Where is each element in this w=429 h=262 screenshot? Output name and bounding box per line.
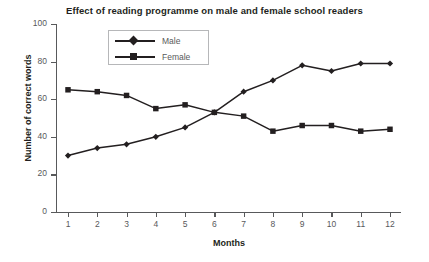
- square-marker-icon: [130, 53, 137, 60]
- chart-title: Effect of reading programme on male and …: [0, 5, 429, 16]
- data-point-female-12: [387, 127, 392, 132]
- y-tick-label-100: 100: [33, 18, 47, 28]
- y-tick-label-20: 20: [38, 168, 47, 178]
- x-tick-7: 7: [244, 212, 245, 217]
- y-tick-20: 20: [51, 174, 56, 175]
- data-point-female-6: [212, 110, 217, 115]
- y-tick-80: 80: [51, 62, 56, 63]
- x-tick-11: 11: [361, 212, 362, 217]
- legend-line-sample-female: [115, 51, 155, 63]
- series-line-male: [68, 63, 390, 155]
- x-tick-label-7: 7: [236, 219, 252, 229]
- data-point-male-10: [328, 68, 334, 74]
- x-tick-4: 4: [156, 212, 157, 217]
- data-point-female-2: [95, 89, 100, 94]
- data-point-female-3: [124, 93, 129, 98]
- data-point-female-8: [270, 128, 275, 133]
- x-axis-line: [56, 212, 401, 213]
- x-axis-title: Months: [57, 238, 401, 248]
- data-point-male-11: [358, 60, 364, 66]
- x-tick-9: 9: [302, 212, 303, 217]
- data-point-male-5: [182, 124, 188, 130]
- x-tick-3: 3: [127, 212, 128, 217]
- series-line-female: [68, 90, 390, 131]
- legend-line-sample-male: [115, 35, 155, 47]
- x-tick-10: 10: [331, 212, 332, 217]
- y-axis-title: Number of correct words: [23, 28, 33, 188]
- data-point-female-5: [182, 102, 187, 107]
- data-point-male-9: [299, 62, 305, 68]
- x-tick-8: 8: [273, 212, 274, 217]
- data-point-male-4: [153, 134, 159, 140]
- x-tick-label-6: 6: [206, 219, 222, 229]
- y-tick-100: 100: [51, 24, 56, 25]
- y-tick-label-40: 40: [38, 131, 47, 141]
- y-tick-label-80: 80: [38, 56, 47, 66]
- y-tick-label-0: 0: [42, 206, 47, 216]
- x-tick-label-4: 4: [148, 219, 164, 229]
- data-point-male-2: [94, 145, 100, 151]
- legend-item-female[interactable]: Female: [109, 48, 210, 65]
- x-tick-label-2: 2: [89, 219, 105, 229]
- x-tick-5: 5: [185, 212, 186, 217]
- y-tick-60: 60: [51, 99, 56, 100]
- x-tick-6: 6: [214, 212, 215, 217]
- data-point-female-9: [299, 123, 304, 128]
- legend: Male Female: [108, 30, 209, 65]
- x-tick-12: 12: [390, 212, 391, 217]
- x-tick-label-12: 12: [382, 219, 398, 229]
- data-point-female-1: [65, 87, 70, 92]
- x-tick-2: 2: [97, 212, 98, 217]
- data-point-female-10: [329, 123, 334, 128]
- x-tick-label-10: 10: [323, 219, 339, 229]
- x-tick-label-9: 9: [294, 219, 310, 229]
- x-tick-label-5: 5: [177, 219, 193, 229]
- diamond-marker-icon: [129, 35, 139, 45]
- data-point-male-12: [387, 60, 393, 66]
- y-tick-40: 40: [51, 137, 56, 138]
- x-tick-label-1: 1: [60, 219, 76, 229]
- data-point-male-8: [270, 77, 276, 83]
- data-point-female-7: [241, 113, 246, 118]
- x-tick-label-3: 3: [119, 219, 135, 229]
- x-tick-label-11: 11: [353, 219, 369, 229]
- data-point-female-11: [358, 128, 363, 133]
- legend-item-male[interactable]: Male: [109, 32, 210, 49]
- data-point-male-3: [123, 141, 129, 147]
- legend-label-female: Female: [162, 52, 190, 62]
- y-tick-0: 0: [51, 212, 56, 213]
- x-tick-1: 1: [68, 212, 69, 217]
- x-tick-label-8: 8: [265, 219, 281, 229]
- legend-label-male: Male: [162, 36, 180, 46]
- data-point-female-4: [153, 106, 158, 111]
- y-tick-label-60: 60: [38, 93, 47, 103]
- data-point-male-1: [65, 153, 71, 159]
